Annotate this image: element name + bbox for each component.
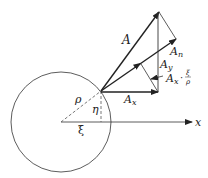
label-projection: A xyxy=(165,72,174,85)
projection-pointer xyxy=(151,76,163,79)
label-An-sub: n xyxy=(178,50,183,59)
label-fraction-den: ρ xyxy=(185,78,191,86)
label-An: A xyxy=(169,45,178,58)
label-projection-sub: x xyxy=(174,77,179,86)
label-Ax: A xyxy=(123,93,132,106)
diagram-canvas: A A n A y A x A x · ξ ρ ρ η ξ x xyxy=(0,0,208,178)
label-A: A xyxy=(121,33,131,47)
perp-A-An xyxy=(159,12,176,39)
label-fraction-num: ξ xyxy=(186,69,191,77)
label-Ax-sub: x xyxy=(132,98,137,107)
label-projection-dot: · xyxy=(180,72,183,83)
label-xi: ξ xyxy=(78,124,84,137)
label-Ay-sub: y xyxy=(167,63,173,72)
label-Ay: A xyxy=(159,58,168,71)
label-rho: ρ xyxy=(74,93,82,106)
vector-decomposition-diagram: A A n A y A x A x · ξ ρ ρ η ξ x xyxy=(0,0,208,178)
label-eta: η xyxy=(92,103,99,116)
label-x-axis: x xyxy=(195,116,202,129)
